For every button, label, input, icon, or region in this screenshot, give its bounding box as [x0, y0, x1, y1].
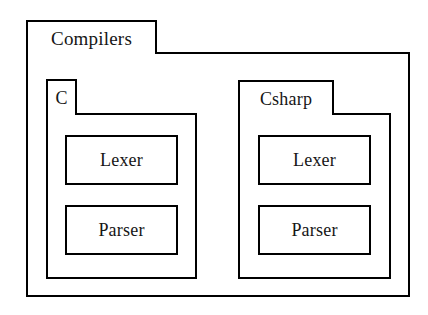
class-label-csharp-parser: Parser: [291, 221, 337, 239]
package-compilers-tab[interactable]: Compilers: [26, 20, 157, 54]
class-box-csharp-lexer[interactable]: Lexer: [258, 135, 371, 185]
class-box-c-parser[interactable]: Parser: [65, 205, 178, 255]
uml-package-diagram: Compilers C Lexer Parser Csharp Lexer Pa…: [0, 0, 428, 315]
class-label-c-lexer: Lexer: [100, 151, 143, 169]
package-compilers-label: Compilers: [51, 29, 132, 48]
class-box-csharp-parser[interactable]: Parser: [258, 205, 371, 255]
class-box-c-lexer[interactable]: Lexer: [65, 135, 178, 185]
package-csharp-label: Csharp: [260, 90, 312, 108]
class-label-csharp-lexer: Lexer: [293, 151, 336, 169]
package-c-tab[interactable]: C: [46, 79, 77, 115]
package-csharp-tab[interactable]: Csharp: [238, 80, 334, 115]
package-c-label: C: [55, 89, 67, 107]
class-label-c-parser: Parser: [98, 221, 144, 239]
